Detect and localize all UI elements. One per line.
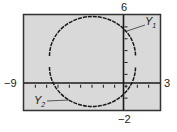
x-max-label: 3 [164,78,170,89]
x-min-label: −9 [4,78,17,89]
y2-label-sub: 2 [41,101,45,108]
y2-label: Y2 [34,95,45,108]
y-min-label: −2 [118,114,131,125]
y-max-label: 6 [121,2,127,13]
y1-label: Y1 [145,16,156,29]
y1-label-sub: 1 [152,22,156,29]
